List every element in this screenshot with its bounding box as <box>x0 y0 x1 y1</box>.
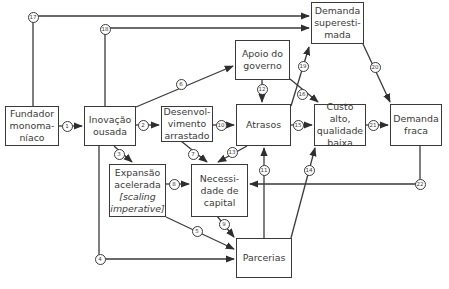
node-demanda-superestimada: Demanda superesti- mada <box>311 2 364 44</box>
node-text-line: monoma- <box>10 120 55 132</box>
node-atrasos: Atrasos <box>236 104 291 146</box>
edge-label-18: 18 <box>100 24 111 35</box>
edge-label-8: 8 <box>169 179 180 190</box>
edge-22 <box>250 146 420 184</box>
edge-label-12: 12 <box>257 84 268 95</box>
node-text-line: arrastado <box>164 130 211 142</box>
edge-label-19: 19 <box>298 61 309 72</box>
edge-label-16: 16 <box>297 89 308 100</box>
node-text-line: [scaling <box>110 191 164 203</box>
node-inovacao-ousada: Inovação ousada <box>84 106 136 146</box>
node-necessidade-de-capital: Necessi- dade de capital <box>191 164 248 217</box>
edge-label-21: 21 <box>368 120 379 131</box>
edge-label-15: 15 <box>293 120 304 131</box>
node-text-line: fraca <box>393 125 439 137</box>
node-text-line: Parcerias <box>243 252 286 264</box>
node-text-line: capital <box>200 197 239 209</box>
edge-label-17: 17 <box>28 12 39 23</box>
edge-label-3: 3 <box>114 149 125 160</box>
node-custo-alto-qualidade-baixa: Custo alto, qualidade baixa <box>314 104 366 146</box>
node-expansao-acelerada: Expansão acelerada [scaling imperative] <box>109 164 166 217</box>
edge-label-11: 11 <box>259 165 270 176</box>
edge-label-14: 14 <box>304 165 315 176</box>
edge-label-7: 7 <box>188 149 199 160</box>
node-text-line: Atrasos <box>246 119 281 131</box>
edge-label-2: 2 <box>138 120 149 131</box>
node-text-line: Fundador <box>10 108 55 120</box>
edge-label-5: 5 <box>192 226 203 237</box>
node-parcerias: Parcerias <box>236 238 292 278</box>
node-text-line: baixa <box>316 137 364 149</box>
node-text-line: Inovação <box>89 114 131 126</box>
edges-layer <box>0 0 449 289</box>
node-apoio-do-governo: Apoio do governo <box>235 40 290 80</box>
edge-20 <box>363 44 390 102</box>
node-text-line: dade de <box>200 185 239 197</box>
node-text-line: Necessi- <box>200 173 239 185</box>
edge-label-10: 10 <box>216 120 227 131</box>
node-text-line: mada <box>314 29 361 41</box>
node-text-line: acelerada <box>110 179 164 191</box>
node-text-line: ousada <box>89 126 131 138</box>
node-text-line: níaco <box>10 132 55 144</box>
node-desenvolvimento-arrastado: Desenvol- vimento arrastado <box>161 106 213 142</box>
edge-label-4: 4 <box>95 254 106 265</box>
node-demanda-fraca: Demanda fraca <box>390 104 442 146</box>
node-text-line: Expansão <box>110 167 164 179</box>
node-text-line: Desenvol- <box>164 106 211 118</box>
edge-label-20: 20 <box>370 62 381 73</box>
node-text-line: qualidade <box>316 125 364 137</box>
node-text-line: Apoio do <box>242 48 283 60</box>
node-text-line: governo <box>242 60 283 72</box>
edge-label-22: 22 <box>415 179 426 190</box>
edge-label-13: 13 <box>227 147 238 158</box>
node-text-line: superesti- <box>314 17 361 29</box>
node-fundador-monomaniaco: Fundador monoma- níaco <box>5 106 59 146</box>
node-text-line: imperative] <box>110 203 164 215</box>
node-text-line: Custo alto, <box>316 101 364 125</box>
node-text-line: Demanda <box>393 113 439 125</box>
node-text-line: vimento <box>164 118 211 130</box>
node-text-line: Demanda <box>314 5 361 17</box>
edge-label-1: 1 <box>62 121 73 132</box>
edge-14 <box>291 148 315 238</box>
edge-label-9: 9 <box>219 219 230 230</box>
edge-label-6: 6 <box>176 79 187 90</box>
